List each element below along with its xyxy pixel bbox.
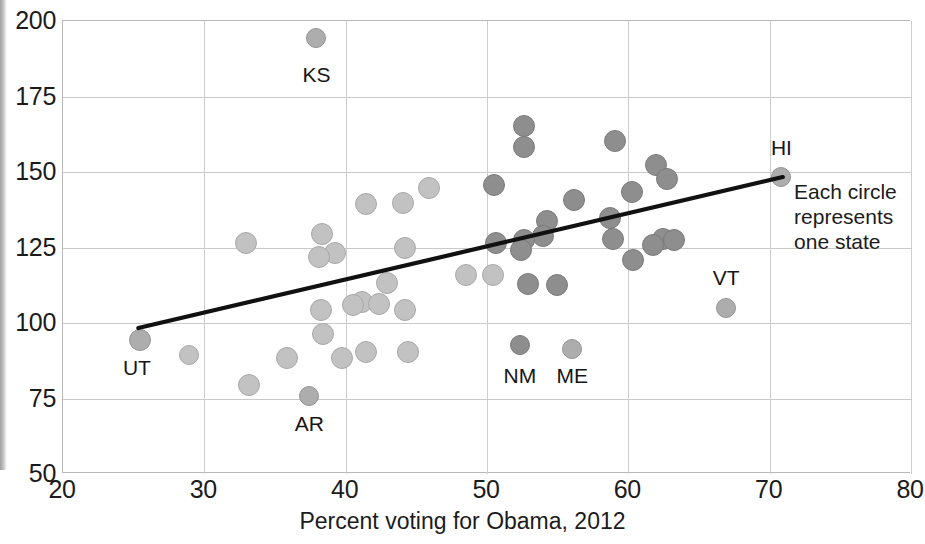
x-tick-label: 60 — [614, 477, 641, 502]
data-point — [510, 239, 532, 261]
data-point — [563, 189, 585, 211]
data-point — [483, 174, 505, 196]
data-point — [394, 299, 416, 321]
gridline-vertical — [204, 21, 205, 474]
data-point-ut — [129, 329, 151, 351]
each-circle-annotation: Each circle represents one state — [794, 180, 897, 254]
data-point-ks — [306, 28, 326, 48]
point-label-nm: NM — [504, 365, 537, 386]
data-point — [392, 192, 414, 214]
y-tick-label: 175 — [4, 84, 56, 109]
x-tick-label: 70 — [755, 477, 782, 502]
data-point — [394, 237, 416, 259]
data-point-ar — [299, 386, 319, 406]
data-point-vt — [716, 298, 736, 318]
x-axis-label: Percent voting for Obama, 2012 — [0, 508, 925, 535]
data-point — [397, 341, 419, 363]
y-tick-label: 125 — [4, 235, 56, 260]
y-tick-label: 75 — [4, 386, 56, 411]
data-point — [513, 115, 535, 137]
data-point — [532, 225, 554, 247]
x-tick-label: 50 — [472, 477, 499, 502]
data-point-hi — [771, 167, 791, 187]
x-tick-label: 80 — [896, 477, 923, 502]
data-point — [355, 341, 377, 363]
data-point — [355, 193, 377, 215]
y-tick-label: 100 — [4, 310, 56, 335]
data-point — [517, 273, 539, 295]
x-tick-label: 40 — [331, 477, 358, 502]
data-point-me — [562, 339, 582, 359]
data-point-nm — [510, 335, 530, 355]
y-axis-ticks: 5075100125150175200 — [0, 0, 56, 544]
data-point — [604, 130, 626, 152]
data-point — [368, 293, 390, 315]
gridline-vertical — [770, 21, 771, 474]
data-point — [656, 168, 678, 190]
gridline-vertical — [628, 21, 629, 474]
point-label-ar: AR — [295, 413, 324, 434]
data-point — [546, 274, 568, 296]
gridline-vertical — [346, 21, 347, 474]
x-tick-label: 30 — [190, 477, 217, 502]
data-point — [418, 177, 440, 199]
x-tick-label: 20 — [48, 477, 75, 502]
data-point — [179, 345, 199, 365]
data-point — [482, 264, 504, 286]
data-point — [621, 181, 643, 203]
point-label-ut: UT — [123, 357, 151, 378]
data-point — [342, 294, 364, 316]
point-label-hi: HI — [771, 137, 792, 158]
data-point — [235, 232, 257, 254]
y-tick-label: 200 — [4, 8, 56, 33]
data-point — [663, 229, 685, 251]
data-point — [622, 249, 644, 271]
data-point — [376, 272, 398, 294]
point-label-me: ME — [556, 365, 588, 386]
point-label-ks: KS — [302, 64, 330, 85]
scatter-plot-figure: 5075100125150175200 20304050607080 KSHIV… — [0, 0, 925, 544]
y-tick-label: 150 — [4, 159, 56, 184]
data-point — [331, 347, 353, 369]
data-point — [312, 323, 334, 345]
data-point — [308, 246, 330, 268]
data-point — [310, 299, 332, 321]
data-point — [642, 234, 664, 256]
data-point — [599, 207, 621, 229]
data-point — [276, 347, 298, 369]
data-point — [513, 136, 535, 158]
data-point — [485, 232, 507, 254]
gridline-vertical — [911, 21, 912, 474]
data-point — [602, 228, 624, 250]
data-point — [238, 374, 260, 396]
data-point — [455, 264, 477, 286]
point-label-vt: VT — [713, 267, 740, 288]
